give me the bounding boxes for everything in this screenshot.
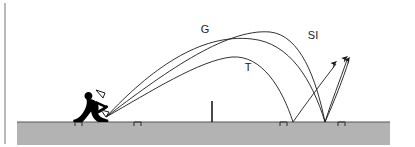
trajectory-g (106, 38, 325, 122)
rebound-g (325, 60, 347, 122)
trajectory-label-t: T (245, 61, 252, 73)
trajectory-label-g: G (201, 23, 210, 35)
figure-canvas: G T SI (0, 0, 415, 147)
trajectory-label-si: SI (308, 29, 318, 41)
ground-slab (17, 122, 390, 145)
trajectory-si (106, 32, 325, 122)
rebound-t (293, 64, 336, 122)
rebound-si (325, 60, 349, 122)
projectile-trajectory-figure: G T SI (0, 0, 415, 147)
upper-hand-marker (96, 90, 105, 98)
trajectory-group (106, 32, 349, 122)
